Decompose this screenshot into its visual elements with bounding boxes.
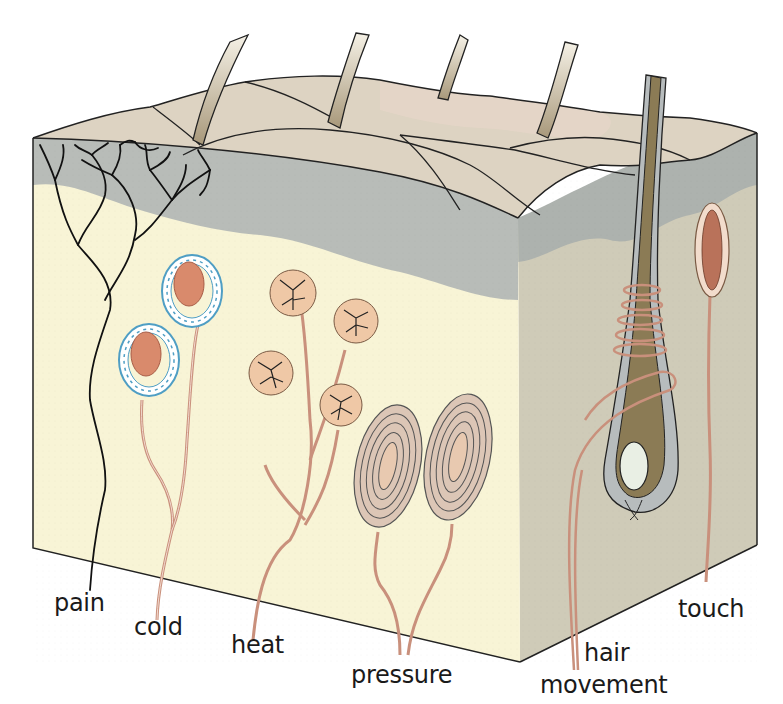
- front-face: [33, 135, 520, 665]
- label-cold: cold: [134, 614, 183, 640]
- label-touch: touch: [678, 596, 744, 622]
- skin-cross-section-diagram: [0, 0, 783, 704]
- label-heat: heat: [231, 632, 284, 658]
- label-hair: hair: [584, 640, 629, 666]
- label-movement: movement: [540, 672, 667, 698]
- label-pressure: pressure: [351, 662, 452, 688]
- label-pain: pain: [54, 590, 105, 616]
